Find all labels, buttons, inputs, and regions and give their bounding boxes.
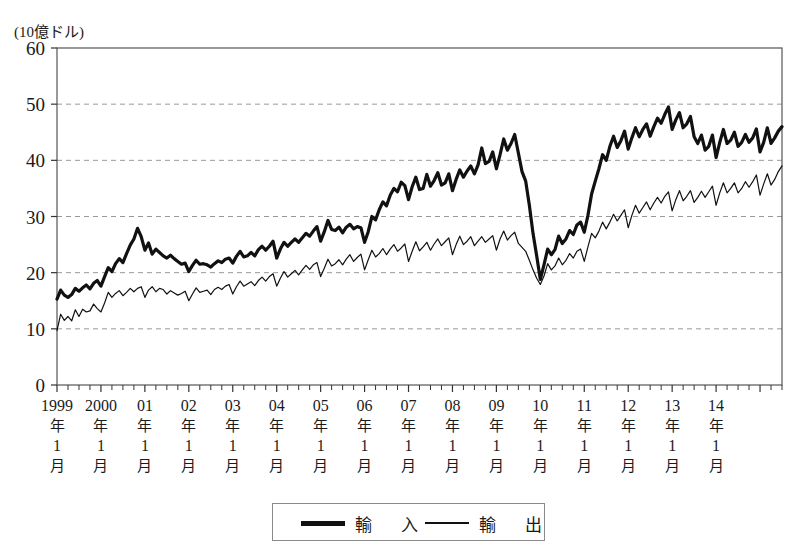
y-tick-label-40: 40 (26, 150, 45, 171)
x-tick-label-11: 10年1月 (520, 396, 560, 476)
x-tick-label-part-gatsu: 月 (213, 456, 253, 476)
x-tick-label-part-month: 1 (213, 436, 253, 456)
y-tick-label-60: 60 (26, 38, 45, 59)
x-tick-label-part-month: 1 (389, 436, 429, 456)
x-tick-label-15: 14年1月 (696, 396, 736, 476)
legend-item-exports: 輸 出 (425, 504, 548, 542)
x-tick-label-part-month: 1 (125, 436, 165, 456)
x-tick-label-part-year: 09 (476, 396, 516, 416)
x-tick-label-6: 05年1月 (301, 396, 341, 476)
plot-area: 0102030405060 (0, 0, 803, 400)
x-tick-label-part-year: 10 (520, 396, 560, 416)
x-tick-label-part-gatsu: 月 (389, 456, 429, 476)
x-tick-label-part-gatsu: 月 (257, 456, 297, 476)
y-tick-label-50: 50 (26, 94, 45, 115)
x-tick-label-8: 07年1月 (389, 396, 429, 476)
x-tick-label-part-nen: 年 (389, 416, 429, 436)
x-tick-label-part-month: 1 (520, 436, 560, 456)
series-line-imports (57, 107, 782, 299)
x-tick-label-part-nen: 年 (432, 416, 472, 436)
legend: 輸 入輸 出 (272, 503, 545, 541)
x-tick-label-9: 08年1月 (432, 396, 472, 476)
x-tick-label-part-year: 04 (257, 396, 297, 416)
legend-item-imports: 輸 入 (301, 504, 424, 542)
x-tick-label-part-gatsu: 月 (652, 456, 692, 476)
x-tick-label-part-nen: 年 (608, 416, 648, 436)
x-tick-label-part-gatsu: 月 (520, 456, 560, 476)
x-tick-label-part-year: 06 (345, 396, 385, 416)
legend-label: 輸 入 (355, 511, 424, 536)
x-tick-label-part-month: 1 (345, 436, 385, 456)
x-tick-label-4: 03年1月 (213, 396, 253, 476)
x-tick-label-part-nen: 年 (476, 416, 516, 436)
x-tick-label-part-gatsu: 月 (345, 456, 385, 476)
x-tick-label-part-month: 1 (652, 436, 692, 456)
y-tick-label-10: 10 (26, 319, 45, 340)
x-tick-label-5: 04年1月 (257, 396, 297, 476)
x-tick-label-part-gatsu: 月 (169, 456, 209, 476)
x-tick-label-part-year: 14 (696, 396, 736, 416)
y-axis-tick-labels: 0102030405060 (26, 38, 45, 396)
y-tick-label-30: 30 (26, 207, 45, 228)
x-tick-label-1: 2000年1月 (81, 396, 121, 476)
x-axis-ticks (57, 385, 782, 392)
x-tick-label-part-nen: 年 (125, 416, 165, 436)
x-tick-label-part-gatsu: 月 (476, 456, 516, 476)
x-tick-label-part-month: 1 (608, 436, 648, 456)
x-tick-label-part-nen: 年 (520, 416, 560, 436)
x-tick-label-part-gatsu: 月 (81, 456, 121, 476)
x-tick-label-part-month: 1 (564, 436, 604, 456)
x-tick-label-part-year: 1999 (37, 396, 77, 416)
x-tick-label-3: 02年1月 (169, 396, 209, 476)
x-tick-label-part-year: 05 (301, 396, 341, 416)
x-tick-label-2: 01年1月 (125, 396, 165, 476)
x-tick-label-part-nen: 年 (37, 416, 77, 436)
x-tick-label-part-nen: 年 (257, 416, 297, 436)
x-tick-label-part-year: 01 (125, 396, 165, 416)
x-tick-label-part-nen: 年 (81, 416, 121, 436)
x-tick-label-part-month: 1 (257, 436, 297, 456)
x-tick-label-part-year: 03 (213, 396, 253, 416)
gridlines (57, 104, 782, 329)
x-tick-label-part-nen: 年 (169, 416, 209, 436)
x-tick-label-0: 1999年1月 (37, 396, 77, 476)
x-tick-label-part-month: 1 (476, 436, 516, 456)
x-tick-label-part-year: 08 (432, 396, 472, 416)
x-tick-label-part-gatsu: 月 (564, 456, 604, 476)
x-tick-label-part-month: 1 (169, 436, 209, 456)
legend-label: 輸 出 (479, 511, 548, 536)
x-tick-label-part-month: 1 (696, 436, 736, 456)
x-tick-label-part-nen: 年 (345, 416, 385, 436)
x-tick-label-part-nen: 年 (213, 416, 253, 436)
x-tick-label-part-month: 1 (37, 436, 77, 456)
legend-swatch-thin (425, 522, 469, 524)
x-tick-label-12: 11年1月 (564, 396, 604, 476)
x-tick-label-part-nen: 年 (564, 416, 604, 436)
x-tick-label-part-gatsu: 月 (301, 456, 341, 476)
x-axis-tick-labels: 1999年1月2000年1月01年1月02年1月03年1月04年1月05年1月0… (0, 396, 803, 496)
x-tick-label-part-nen: 年 (696, 416, 736, 436)
y-tick-label-20: 20 (26, 263, 45, 284)
x-tick-label-part-gatsu: 月 (696, 456, 736, 476)
x-tick-label-14: 13年1月 (652, 396, 692, 476)
x-tick-label-part-month: 1 (432, 436, 472, 456)
x-tick-label-part-month: 1 (81, 436, 121, 456)
chart-container: (10億ドル) 0102030405060 1999年1月2000年1月01年1… (0, 0, 803, 556)
x-tick-label-part-gatsu: 月 (125, 456, 165, 476)
x-tick-label-part-year: 11 (564, 396, 604, 416)
x-tick-label-10: 09年1月 (476, 396, 516, 476)
x-tick-label-part-nen: 年 (301, 416, 341, 436)
x-tick-label-part-gatsu: 月 (37, 456, 77, 476)
x-tick-label-part-year: 12 (608, 396, 648, 416)
x-tick-label-part-month: 1 (301, 436, 341, 456)
x-tick-label-part-year: 07 (389, 396, 429, 416)
legend-swatch-thick (301, 521, 345, 526)
x-tick-label-part-nen: 年 (652, 416, 692, 436)
x-tick-label-part-year: 2000 (81, 396, 121, 416)
x-tick-label-13: 12年1月 (608, 396, 648, 476)
x-tick-label-part-year: 13 (652, 396, 692, 416)
x-tick-label-part-gatsu: 月 (432, 456, 472, 476)
x-tick-label-7: 06年1月 (345, 396, 385, 476)
x-tick-label-part-gatsu: 月 (608, 456, 648, 476)
y-tick-label-0: 0 (36, 375, 46, 396)
